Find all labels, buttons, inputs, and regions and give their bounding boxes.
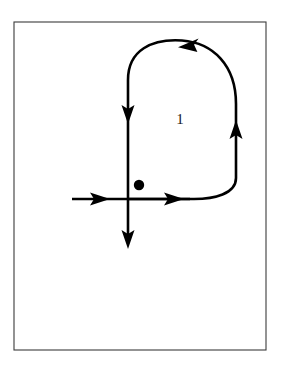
- loop-label: 1: [176, 111, 184, 127]
- basepoint-dot: [134, 180, 144, 190]
- loop-diagram-canvas: 1: [0, 0, 281, 371]
- figure-container: 1: [0, 0, 281, 371]
